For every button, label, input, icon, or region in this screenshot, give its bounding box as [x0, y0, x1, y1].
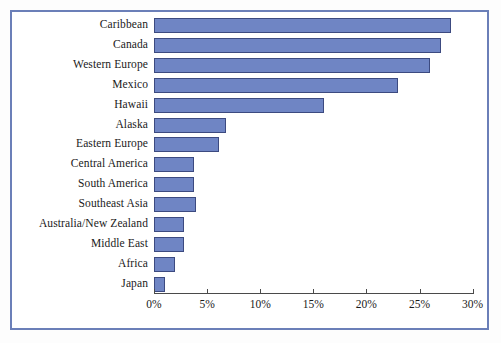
- bar: [154, 177, 194, 192]
- bar: [154, 38, 441, 53]
- category-label: Alaska: [8, 119, 148, 131]
- x-axis-tick: [313, 289, 314, 293]
- x-axis-tick-label: 20%: [356, 299, 377, 311]
- category-label: Central America: [8, 158, 148, 170]
- category-label: Middle East: [8, 238, 148, 250]
- x-axis-tick-label: 0%: [146, 299, 161, 311]
- bar: [154, 137, 219, 152]
- x-axis-tick: [473, 289, 474, 293]
- plot-area: CaribbeanCanadaWestern EuropeMexicoHawai…: [12, 12, 491, 332]
- category-label: Africa: [8, 258, 148, 270]
- bar: [154, 197, 196, 212]
- x-axis-tick: [420, 289, 421, 293]
- x-axis-tick-label: 25%: [409, 299, 430, 311]
- x-axis-line: [154, 293, 474, 294]
- category-label: Caribbean: [8, 19, 148, 31]
- x-axis-tick-label: 15%: [303, 299, 324, 311]
- category-label: Australia/New Zealand: [8, 218, 148, 230]
- x-axis-tick-label: 5%: [199, 299, 214, 311]
- category-label: Hawaii: [8, 99, 148, 111]
- bar: [154, 98, 324, 113]
- chart-frame: CaribbeanCanadaWestern EuropeMexicoHawai…: [10, 10, 489, 330]
- x-axis-tick: [154, 289, 155, 293]
- category-label: South America: [8, 178, 148, 190]
- category-label: Japan: [8, 278, 148, 290]
- category-label: Southeast Asia: [8, 198, 148, 210]
- category-label: Eastern Europe: [8, 138, 148, 150]
- x-axis-tick: [207, 289, 208, 293]
- x-axis-tick-label: 10%: [250, 299, 271, 311]
- category-label: Western Europe: [8, 59, 148, 71]
- bar: [154, 78, 398, 93]
- bar: [154, 217, 184, 232]
- x-axis-tick: [366, 289, 367, 293]
- category-label: Canada: [8, 39, 148, 51]
- bar: [154, 257, 175, 272]
- bar: [154, 157, 194, 172]
- bar-chart-figure: CaribbeanCanadaWestern EuropeMexicoHawai…: [0, 0, 501, 343]
- x-axis-tick-label: 30%: [462, 299, 483, 311]
- category-label: Mexico: [8, 79, 148, 91]
- bar: [154, 118, 226, 133]
- bar: [154, 18, 451, 33]
- x-axis-tick: [260, 289, 261, 293]
- bar: [154, 237, 184, 252]
- bar: [154, 58, 430, 73]
- bar: [154, 277, 165, 292]
